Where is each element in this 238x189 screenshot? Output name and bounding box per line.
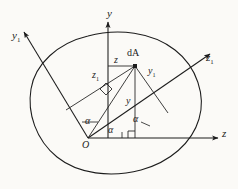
- diagram-canvas: [0, 0, 238, 189]
- point-label-element: dA: [127, 48, 139, 58]
- segment-label-y1: y1: [148, 66, 156, 76]
- axis-label-z1: z1: [206, 52, 214, 63]
- figure-root: y z y1 z1 O dA z z1 y y1 α α α: [0, 0, 238, 189]
- segment-label-z: z: [114, 55, 118, 65]
- angle-label-y-y1: α: [85, 116, 90, 126]
- angle-label-element: α: [133, 114, 138, 124]
- angle-arc-element: [141, 122, 150, 126]
- segment-label-y: y: [126, 96, 130, 106]
- segment-label-z1: z1: [92, 70, 99, 80]
- angle-label-origin: α: [108, 125, 113, 135]
- axis-label-y1: y1: [12, 30, 20, 41]
- point-label-origin: O: [82, 140, 89, 150]
- element-dot: [133, 64, 137, 68]
- axis-label-z: z: [222, 128, 226, 139]
- axis-label-y: y: [107, 8, 112, 19]
- right-angle-perp-mark: [106, 83, 112, 95]
